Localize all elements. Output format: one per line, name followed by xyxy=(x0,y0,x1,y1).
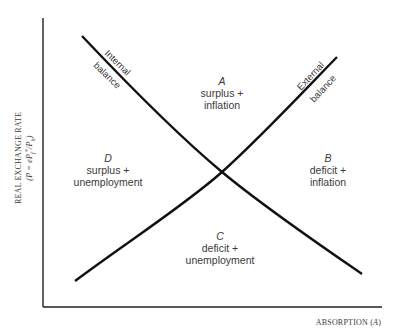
x-axis-label: ABSORPTION (A) xyxy=(316,318,381,327)
region-a-line1: surplus + xyxy=(201,87,244,99)
region-d-line2: unemployment xyxy=(74,176,143,188)
region-d-label: D surplus + unemployment xyxy=(74,152,143,188)
region-c-letter: C xyxy=(186,230,255,242)
region-b-line1: deficit + xyxy=(310,164,346,176)
region-c-label: C deficit + unemployment xyxy=(186,230,255,266)
region-a-label: A surplus + inflation xyxy=(201,75,244,111)
y-axis-label: REAL EXCHANGE RATE xyxy=(14,112,23,204)
region-b-line2: inflation xyxy=(310,176,346,188)
region-a-letter: A xyxy=(201,75,244,87)
region-d-line1: surplus + xyxy=(74,164,143,176)
region-a-line2: inflation xyxy=(201,99,244,111)
y-axis-formula: (P = ePf*/Ph) xyxy=(24,135,36,180)
region-b-letter: B xyxy=(310,152,346,164)
region-c-line2: unemployment xyxy=(186,254,255,266)
svg-text:REAL EXCHANGE RATE: REAL EXCHANGE RATE xyxy=(14,112,23,204)
region-c-line1: deficit + xyxy=(186,242,255,254)
region-d-letter: D xyxy=(74,152,143,164)
region-b-label: B deficit + inflation xyxy=(310,152,346,188)
svg-text:(P = ePf*/Ph): (P = ePf*/Ph) xyxy=(24,135,36,180)
